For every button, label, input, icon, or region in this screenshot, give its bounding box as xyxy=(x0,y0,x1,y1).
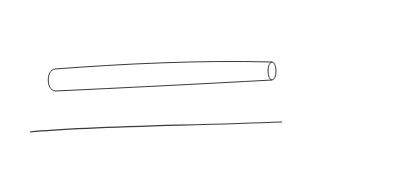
soil-boundary-line xyxy=(30,122,282,132)
drain-diagram xyxy=(0,0,396,189)
perforated-pipe xyxy=(48,61,276,91)
